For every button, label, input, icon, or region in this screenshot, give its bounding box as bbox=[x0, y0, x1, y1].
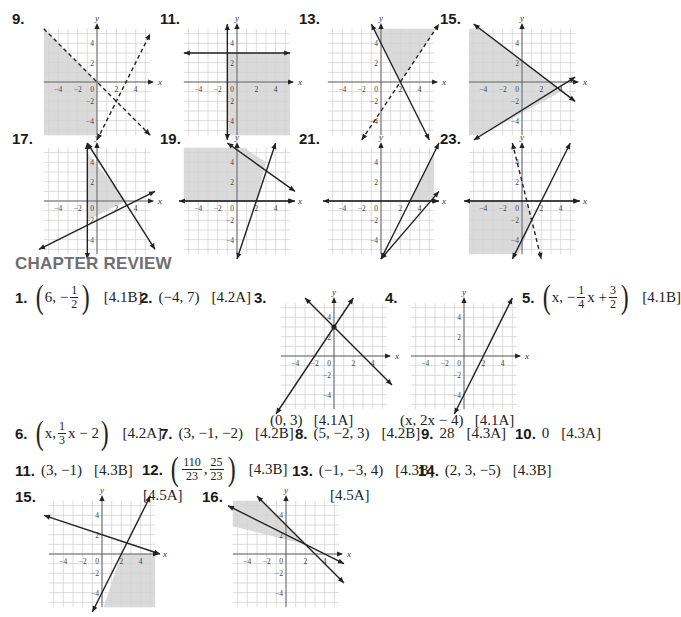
section-heading: CHAPTER REVIEW bbox=[15, 254, 172, 274]
x-tick-label: −2 bbox=[74, 204, 82, 213]
answer-8: 8. (5, −2, 3) [4.2B] bbox=[295, 425, 420, 442]
y-axis-label: y bbox=[94, 13, 99, 23]
shaded-region bbox=[179, 143, 266, 201]
section-reference: [4.3B] bbox=[513, 462, 552, 479]
fraction-numerator: 1 bbox=[577, 284, 585, 298]
line-arrow-icon bbox=[225, 24, 230, 30]
section-reference: [4.3B] bbox=[94, 462, 133, 479]
fraction: 2523 bbox=[210, 456, 224, 483]
y-axis-label: y bbox=[234, 132, 239, 142]
y-tick-label: 4 bbox=[230, 158, 234, 167]
x-tick-label: −4 bbox=[479, 85, 487, 94]
answer-number: 9. bbox=[421, 425, 434, 442]
fraction-numerator: 3 bbox=[609, 284, 617, 298]
x-axis-label: x bbox=[297, 196, 302, 206]
fraction: 32 bbox=[609, 284, 617, 311]
graph-exercise-9: xy−4−4−2−222440 bbox=[33, 18, 161, 146]
answer-value: 28 bbox=[440, 425, 455, 442]
line-arrow-icon bbox=[236, 252, 241, 259]
fraction-denominator: 2 bbox=[610, 298, 616, 311]
answer-value: (3, −1) bbox=[41, 462, 82, 479]
y-tick-label: 4 bbox=[90, 158, 94, 167]
x-tick-label: 2 bbox=[539, 204, 543, 213]
x-axis-label: x bbox=[157, 196, 162, 206]
y-tick-label: 4 bbox=[230, 39, 234, 48]
x-tick-label: 2 bbox=[398, 204, 402, 213]
fraction-numerator: 1 bbox=[58, 420, 66, 434]
fraction: 13 bbox=[58, 420, 66, 447]
y-axis-label: y bbox=[331, 287, 336, 297]
graph-answer-3: xy−4−4−2−222440 bbox=[270, 292, 398, 420]
right-paren: ) bbox=[621, 280, 629, 314]
x-tick-label: −4 bbox=[54, 204, 62, 213]
y-tick-label: 2 bbox=[515, 59, 519, 68]
graph-exercise-21: xy−4−4−2−222440 bbox=[317, 137, 445, 265]
y-tick-label: 4 bbox=[90, 39, 94, 48]
x-axis-arrow-icon bbox=[148, 79, 154, 84]
y-axis-arrow-icon bbox=[234, 23, 239, 29]
x-tick-label: 4 bbox=[559, 204, 563, 213]
y-axis-label: y bbox=[234, 13, 239, 23]
x-axis-label: x bbox=[157, 77, 162, 87]
answer-value: (3, −1, −2) bbox=[179, 425, 243, 442]
y-tick-label: −4 bbox=[511, 236, 519, 245]
graph-answer-16: xy−4−4−2−222440 bbox=[222, 490, 350, 617]
answer-number: 3. bbox=[254, 289, 267, 306]
left-paren: ( bbox=[35, 416, 43, 450]
x-axis-label: x bbox=[394, 351, 399, 361]
exercise-number: 17. bbox=[12, 130, 33, 147]
answer-value: 0 bbox=[542, 425, 550, 442]
x-axis-arrow-icon bbox=[432, 79, 438, 84]
line-arrow-icon bbox=[433, 198, 439, 203]
answer-9: 9. 28 [4.3A] bbox=[421, 425, 506, 442]
y-axis-label: y bbox=[99, 485, 104, 495]
x-axis-label: x bbox=[297, 77, 302, 87]
fraction-denominator: 2 bbox=[71, 298, 77, 311]
x-tick-label: 2 bbox=[303, 557, 307, 566]
answer-7: 7. (3, −1, −2) [4.2B] bbox=[160, 425, 294, 442]
x-tick-label: 2 bbox=[351, 359, 355, 368]
answer-number: 12. bbox=[142, 461, 163, 478]
y-tick-label: −2 bbox=[511, 97, 519, 106]
section-reference: [4.1B] bbox=[642, 289, 681, 306]
origin-label: 0 bbox=[327, 359, 331, 368]
x-tick-label: 4 bbox=[274, 85, 278, 94]
right-paren: ) bbox=[82, 280, 90, 314]
fraction: 14 bbox=[577, 284, 585, 311]
y-axis-arrow-icon bbox=[94, 142, 99, 148]
fraction: 12 bbox=[70, 284, 78, 311]
y-tick-label: −4 bbox=[91, 589, 99, 598]
answer-number: 11. bbox=[15, 462, 35, 479]
answer-11: 11. (3, −1) [4.3B] bbox=[15, 462, 133, 479]
x-tick-label: −4 bbox=[291, 359, 299, 368]
x-tick-label: 4 bbox=[134, 85, 138, 94]
x-tick-label: 2 bbox=[539, 85, 543, 94]
answer-value: (5, −2, 3) bbox=[314, 425, 370, 442]
fraction-denominator: 3 bbox=[59, 434, 65, 447]
answer-number: 16. bbox=[202, 488, 223, 505]
answer-number: 13. bbox=[292, 462, 313, 479]
x-tick-label: 4 bbox=[418, 85, 422, 94]
y-axis-label: y bbox=[94, 132, 99, 142]
y-tick-label: 2 bbox=[374, 178, 378, 187]
fraction-numerator: 110 bbox=[182, 456, 202, 470]
x-axis-label: x bbox=[162, 549, 167, 559]
intersection-point bbox=[331, 324, 336, 329]
y-tick-label: −2 bbox=[370, 216, 378, 225]
answer-2: 2. (−4, 7) [4.2A] bbox=[140, 289, 251, 306]
answer-value: x − 2 bbox=[68, 425, 99, 442]
x-tick-label: −4 bbox=[421, 359, 429, 368]
boundary-line-solid bbox=[305, 298, 392, 385]
section-reference: [4.2A] bbox=[211, 289, 251, 306]
y-axis-arrow-icon bbox=[519, 23, 524, 29]
x-axis-arrow-icon bbox=[385, 353, 391, 358]
fraction: 11023 bbox=[182, 456, 202, 483]
y-axis-label: y bbox=[519, 132, 524, 142]
x-tick-label: −2 bbox=[358, 204, 366, 213]
x-tick-label: −2 bbox=[499, 85, 507, 94]
answer-6: 6. ( x, 13 x − 2 ) [4.2A] bbox=[15, 416, 162, 450]
y-tick-label: −2 bbox=[511, 216, 519, 225]
origin-label: 0 bbox=[515, 204, 519, 213]
x-axis-arrow-icon bbox=[515, 353, 521, 358]
origin-label: 0 bbox=[90, 204, 94, 213]
